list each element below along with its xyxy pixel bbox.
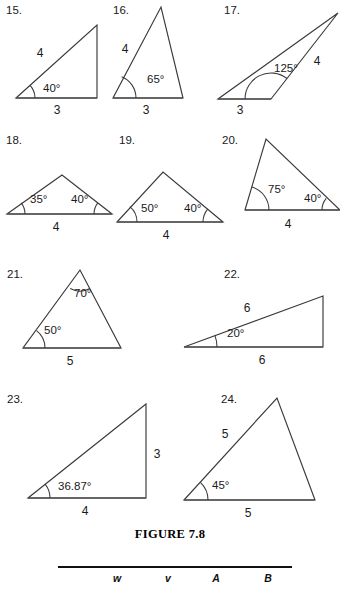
problem-number: 15.: [6, 4, 22, 16]
problem-number: 23.: [7, 393, 23, 405]
triangle-problem-18: 18.435°40°: [6, 134, 112, 234]
side-length-label-2: 5: [245, 506, 252, 520]
table-column-header-A: A: [211, 572, 220, 584]
angle-measure-label-2: 40°: [304, 192, 321, 204]
side-length-label-1: 3: [154, 447, 161, 461]
side-length-label-1: 4: [163, 228, 170, 242]
triangle-outline: [23, 270, 121, 348]
angle-arc-1: [45, 484, 50, 498]
side-length-label-1: 4: [53, 220, 60, 234]
angle-arc-1: [215, 335, 217, 347]
angle-arc-1: [122, 77, 136, 98]
side-length-label-1: 4: [285, 217, 292, 231]
side-length-label-2: 6: [259, 353, 266, 367]
problem-number: 17.: [224, 4, 240, 16]
triangle-problem-20: 20.475°40°: [222, 134, 340, 231]
problem-number: 16.: [113, 4, 129, 16]
angle-measure-label-1: 125°: [274, 62, 298, 74]
angle-measure-label-1: 65°: [147, 73, 164, 85]
angle-arc-1: [252, 187, 269, 210]
side-length-label-2: 3: [143, 103, 150, 117]
problem-number: 22.: [224, 268, 240, 280]
triangle-outline: [184, 296, 323, 347]
triangle-outline: [7, 175, 112, 214]
angle-measure-label-1: 36.87°: [58, 480, 91, 492]
side-length-label-1: 4: [314, 54, 321, 68]
triangle-problem-17: 17.43125°: [218, 4, 338, 117]
triangle-problems-layer: 15.4340°16.4365°17.43125°18.435°40°19.45…: [6, 4, 340, 520]
figure-caption-layer: FIGURE 7.8: [135, 527, 205, 541]
angle-measure-label-1: 75°: [268, 183, 285, 195]
side-length-label-2: 4: [82, 504, 89, 518]
angle-measure-label-1: 50°: [141, 202, 158, 214]
angle-arc-2: [322, 198, 326, 210]
angle-measure-label-2: 40°: [184, 202, 201, 214]
problem-number: 18.: [6, 134, 22, 146]
problem-number: 21.: [7, 268, 23, 280]
triangle-problem-24: 24.5545°: [184, 393, 315, 520]
angle-measure-label-2: 70°: [74, 287, 91, 299]
figure-canvas: 15.4340°16.4365°17.43125°18.435°40°19.45…: [0, 0, 340, 593]
figure-container: 15.4340°16.4365°17.43125°18.435°40°19.45…: [0, 0, 340, 593]
side-length-label-1: 6: [244, 301, 251, 315]
triangle-problem-23: 23.3436.87°: [7, 393, 161, 518]
triangle-problem-16: 16.4365°: [113, 4, 183, 117]
angle-arc-1: [30, 85, 35, 98]
table-column-header-v: v: [165, 572, 172, 584]
triangle-outline: [184, 398, 315, 500]
angle-measure-label-1: 20°: [227, 327, 244, 339]
angle-measure-label-1: 40°: [43, 82, 60, 94]
table-header: wvAB: [58, 567, 292, 584]
triangle-problem-22: 22.6620°: [184, 268, 323, 367]
figure-caption: FIGURE 7.8: [135, 527, 205, 541]
angle-arc-1: [200, 482, 208, 500]
side-length-label-2: 3: [237, 103, 244, 117]
triangle-problem-19: 19.450°40°: [117, 134, 223, 242]
table-column-headers: wvAB: [113, 572, 272, 584]
table-column-header-B: B: [264, 572, 272, 584]
side-length-label-2: 3: [54, 103, 61, 117]
side-length-label-1: 5: [67, 354, 74, 368]
angle-measure-label-1: 35°: [30, 193, 47, 205]
angle-measure-label-1: 50°: [44, 324, 61, 336]
problem-number: 20.: [222, 134, 238, 146]
triangle-problem-21: 21.550°70°: [7, 268, 121, 368]
triangle-outline: [117, 172, 223, 222]
problem-number: 19.: [119, 134, 135, 146]
problem-number: 24.: [221, 393, 237, 405]
side-length-label-1: 4: [122, 42, 129, 56]
side-length-label-1: 4: [37, 46, 44, 60]
angle-measure-label-1: 45°: [212, 479, 229, 491]
table-column-header-w: w: [113, 572, 122, 584]
angle-arc-2: [94, 203, 98, 214]
side-length-label-1: 5: [222, 427, 229, 441]
triangle-problem-15: 15.4340°: [6, 4, 97, 117]
angle-arc-1: [21, 203, 25, 214]
angle-measure-label-2: 40°: [71, 193, 88, 205]
angle-arc-1: [130, 207, 137, 222]
angle-arc-2: [203, 209, 208, 222]
